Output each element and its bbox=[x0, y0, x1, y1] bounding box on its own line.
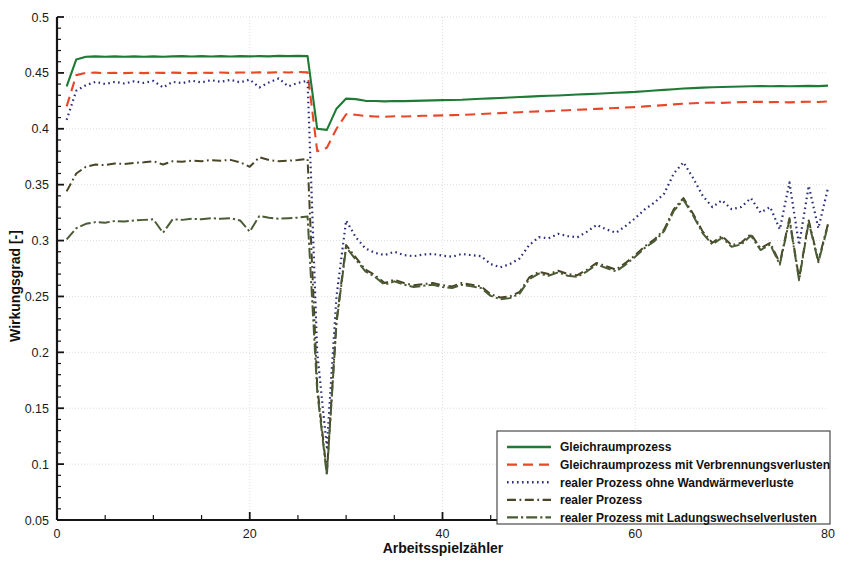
x-tick-label: 40 bbox=[436, 527, 450, 541]
y-tick-label: 0.05 bbox=[25, 514, 49, 528]
y-tick-label: 0.2 bbox=[32, 346, 49, 360]
legend-label-3: realer Prozess bbox=[560, 493, 642, 507]
y-tick-label: 0.45 bbox=[25, 66, 49, 80]
x-tick-label: 20 bbox=[243, 527, 257, 541]
efficiency-line-chart: 0.050.10.150.20.250.30.350.40.450.502040… bbox=[0, 0, 856, 572]
y-tick-label: 0.15 bbox=[25, 402, 49, 416]
y-tick-label: 0.3 bbox=[32, 234, 49, 248]
chart-legend: GleichraumprozessGleichraumprozess mit V… bbox=[497, 431, 830, 525]
x-tick-label: 80 bbox=[821, 527, 835, 541]
y-tick-label: 0.35 bbox=[25, 178, 49, 192]
legend-label-2: realer Prozess ohne Wandwärmeverluste bbox=[560, 476, 794, 490]
chart-root: 0.050.10.150.20.250.30.350.40.450.502040… bbox=[0, 0, 856, 572]
legend-label-4: realer Prozess mit Ladungswechselverlust… bbox=[560, 511, 817, 525]
y-tick-label: 0.5 bbox=[32, 11, 49, 25]
y-tick-label: 0.25 bbox=[25, 290, 49, 304]
legend-label-0: Gleichraumprozess bbox=[560, 440, 672, 454]
x-tick-label: 0 bbox=[54, 527, 61, 541]
legend-label-1: Gleichraumprozess mit Verbrennungsverlus… bbox=[560, 458, 830, 472]
y-tick-label: 0.4 bbox=[32, 122, 49, 136]
x-tick-label: 60 bbox=[628, 527, 642, 541]
x-axis-title: Arbeitsspielzähler bbox=[383, 540, 504, 556]
y-tick-label: 0.1 bbox=[32, 458, 49, 472]
y-axis-title: Wirkungsgrad [-] bbox=[7, 230, 23, 342]
